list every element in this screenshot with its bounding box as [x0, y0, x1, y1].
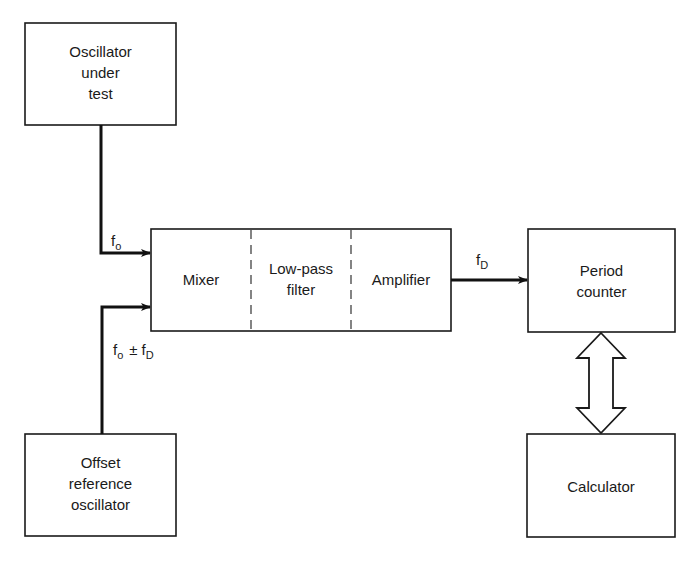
offset-reference-label-line1: Offset [81, 454, 122, 471]
amplifier-label: Amplifier [372, 271, 430, 288]
signal-fo-pm-fd-label: fo±fD [113, 341, 154, 361]
block-diagram: Oscillator under test Offset reference o… [0, 0, 696, 561]
oscillator-under-test-label-line1: Oscillator [69, 43, 132, 60]
oscillator-under-test-label-line2: under [81, 64, 119, 81]
bidirectional-arrow-icon [577, 333, 625, 433]
offset-reference-label-line3: oscillator [71, 496, 130, 513]
period-counter-block: Period counter [528, 229, 675, 332]
arrow-fo-pm-fd-to-mixer [102, 307, 150, 434]
mixer-label: Mixer [183, 271, 220, 288]
arrow-fo-to-mixer [101, 125, 150, 253]
signal-fo-label: fo [111, 232, 121, 252]
offset-reference-label-line2: reference [69, 475, 132, 492]
calculator-block: Calculator [527, 434, 675, 537]
period-counter-label-line1: Period [580, 262, 623, 279]
lowpass-label-line1: Low-pass [269, 260, 333, 277]
oscillator-under-test-label-line3: test [88, 85, 113, 102]
offset-reference-oscillator-block: Offset reference oscillator [25, 434, 176, 536]
oscillator-under-test-block: Oscillator under test [25, 23, 176, 125]
period-counter-label-line2: counter [576, 283, 626, 300]
mixer-filter-amplifier-block: Mixer Low-pass filter Amplifier [151, 229, 451, 331]
lowpass-label-line2: filter [287, 281, 315, 298]
signal-fd-label: fD [476, 251, 488, 271]
calculator-label: Calculator [567, 478, 635, 495]
